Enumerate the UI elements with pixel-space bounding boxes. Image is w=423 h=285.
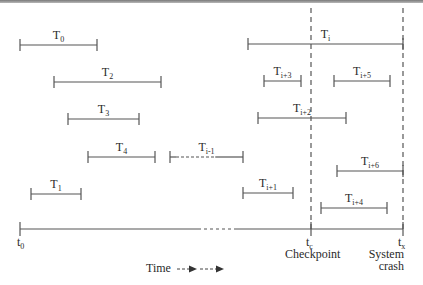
label-subscript: i+6 — [368, 161, 379, 170]
transaction-tiplus6-label: Ti+6 — [361, 155, 379, 167]
transaction-t1-label: T1 — [50, 178, 61, 190]
label-subscript: i+5 — [360, 71, 371, 80]
transaction-tiplus3-label: Ti+3 — [273, 65, 291, 77]
time-arrow-icon — [176, 263, 230, 275]
transaction-tiplus2-label: Ti+2 — [293, 102, 311, 114]
label-subscript: 0 — [60, 35, 64, 44]
axis-start-label: t0 — [17, 236, 24, 248]
checkpoint-caption: Checkpoint — [285, 248, 340, 260]
transaction-ti-label: Ti — [321, 28, 331, 40]
transaction-t2-label: T2 — [102, 66, 113, 78]
transaction-t3-label: T3 — [98, 103, 109, 115]
label-subscript: i+2 — [300, 108, 311, 117]
label-subscript: i+1 — [266, 183, 277, 192]
transaction-tiplus5-label: Ti+5 — [353, 65, 371, 77]
time-legend-label: Time — [146, 262, 171, 274]
transaction-t4-label: T4 — [116, 141, 127, 153]
transaction-tiplus4-label: Ti+4 — [345, 192, 363, 204]
label-subscript: 3 — [105, 109, 109, 118]
label-subscript: 1 — [58, 184, 62, 193]
crash-caption-line2: crash — [379, 260, 404, 272]
transaction-tiplus1-label: Ti+1 — [259, 177, 277, 189]
label-subscript: i+3 — [281, 71, 292, 80]
transaction-timinus1-label: Ti-1 — [198, 141, 214, 153]
label-subscript: 4 — [123, 147, 127, 156]
transaction-t0-label: T0 — [53, 29, 64, 41]
label-subscript: i+4 — [352, 198, 363, 207]
label-subscript: 2 — [109, 72, 113, 81]
label-subscript: i — [328, 34, 330, 43]
axis-start-sub: 0 — [20, 242, 24, 251]
label-subscript: i-1 — [206, 147, 215, 156]
